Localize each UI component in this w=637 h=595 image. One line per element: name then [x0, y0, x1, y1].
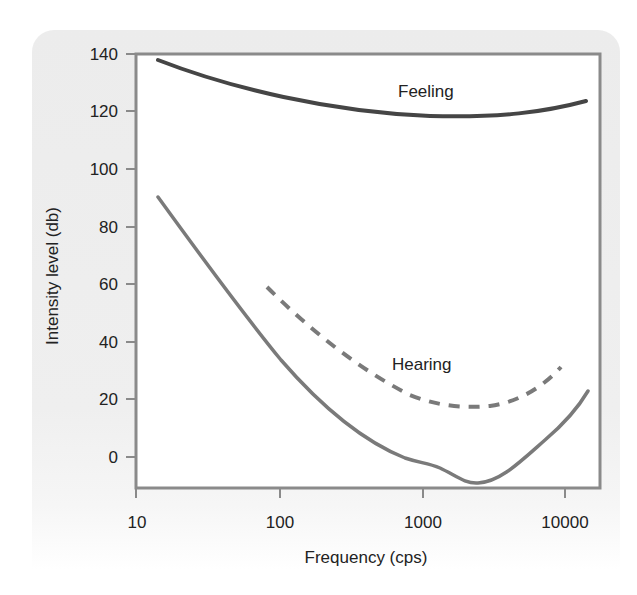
threshold-chart: 140 120 100 80 60 40 20 0 10 100 1000 10… — [0, 0, 637, 595]
y-tick-40: 40 — [99, 333, 118, 352]
x-tick-labels: 10 100 1000 10000 — [128, 513, 589, 532]
y-tick-100: 100 — [90, 160, 118, 179]
y-tick-80: 80 — [99, 218, 118, 237]
y-tick-labels: 140 120 100 80 60 40 20 0 — [90, 45, 118, 467]
y-tick-0: 0 — [109, 448, 118, 467]
x-tick-100: 100 — [266, 513, 294, 532]
x-axis-title: Frequency (cps) — [305, 548, 428, 567]
feeling-label: Feeling — [398, 82, 454, 101]
plot-area — [136, 54, 600, 488]
y-tick-20: 20 — [99, 390, 118, 409]
y-tick-60: 60 — [99, 275, 118, 294]
y-tick-120: 120 — [90, 102, 118, 121]
hearing-label: Hearing — [392, 355, 452, 374]
x-tick-10000: 10000 — [541, 513, 588, 532]
y-axis-title: Intensity level (db) — [43, 207, 62, 345]
x-tick-1000: 1000 — [404, 513, 442, 532]
x-tick-10: 10 — [128, 513, 147, 532]
y-tick-140: 140 — [90, 45, 118, 64]
